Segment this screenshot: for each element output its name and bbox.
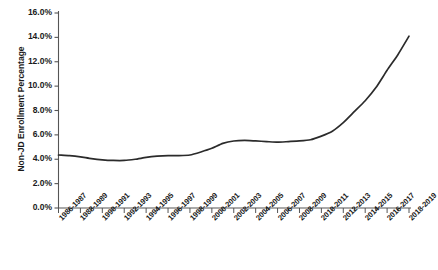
chart-axes bbox=[59, 11, 412, 208]
chart-tick-marks bbox=[55, 13, 410, 213]
data-series-line bbox=[59, 36, 410, 160]
